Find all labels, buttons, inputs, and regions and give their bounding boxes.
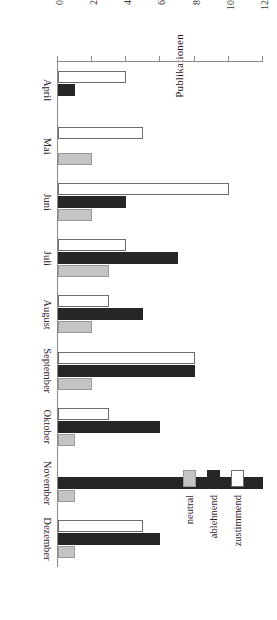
bar-ablehnend-oktober[interactable] [58,421,161,433]
legend-item-neutral: neutral [179,470,201,600]
bar-group [58,343,263,399]
bar-group [58,62,263,118]
legend-label-zustimmend: zustimmend [233,495,244,546]
bar-zustimmend-mai[interactable] [58,127,143,139]
bar-neutral-november[interactable] [58,490,75,502]
y-tick-mark [160,56,161,61]
legend-swatch-icon-zustimmend [232,470,245,487]
bar-ablehnend-august[interactable] [58,308,143,320]
bar-chart-figure: Publikationen 024681012 AprilMaiJuniJuli… [0,0,277,620]
bar-zustimmend-april[interactable] [58,71,126,83]
legend-swatch-icon-neutral [184,470,197,487]
y-tick-mark [262,56,263,61]
y-tick-label: 8 [191,0,202,54]
bar-zustimmend-oktober[interactable] [58,408,109,420]
bar-group [58,230,263,286]
legend-label-neutral: neutral [185,495,196,524]
bar-neutral-mai[interactable] [58,153,92,165]
bar-zustimmend-dezember[interactable] [58,520,143,532]
y-tick-label: 10 [225,0,236,54]
rotated-figure-wrapper: Publikationen 024681012 AprilMaiJuniJuli… [0,0,277,620]
y-tick-label: 4 [122,0,133,54]
x-tick-label-oktober: Oktober [42,399,53,455]
chart-legend: zustimmend ablehnend neutral [177,470,249,600]
y-tick-mark [57,56,58,61]
x-tick-label-april: April [42,62,53,118]
bar-ablehnend-april[interactable] [58,84,75,96]
x-tick-label-november: November [42,455,53,511]
x-tick-label-juni: Juni [42,174,53,230]
legend-item-ablehnend: ablehnend [203,470,225,600]
y-tick-label: 2 [88,0,99,54]
bar-group [58,399,263,455]
x-tick-label-mai: Mai [42,118,53,174]
y-tick-mark [91,56,92,61]
bar-ablehnend-juni[interactable] [58,196,126,208]
y-tick-mark [228,56,229,61]
bar-neutral-september[interactable] [58,378,92,390]
bar-neutral-juni[interactable] [58,209,92,221]
bar-neutral-oktober[interactable] [58,434,75,446]
bar-neutral-dezember[interactable] [58,546,75,558]
x-tick-label-august: August [42,286,53,342]
bar-zustimmend-juli[interactable] [58,239,126,251]
bar-ablehnend-juli[interactable] [58,252,178,264]
x-tick-label-juli: Juli [42,230,53,286]
x-tick-label-dezember: Dezember [42,511,53,567]
bar-ablehnend-september[interactable] [58,365,195,377]
bar-ablehnend-dezember[interactable] [58,533,161,545]
y-tick-label: 0 [54,0,65,54]
bar-zustimmend-september[interactable] [58,352,195,364]
y-tick-mark [125,56,126,61]
legend-swatch-icon-ablehnend [208,470,221,487]
bar-zustimmend-august[interactable] [58,295,109,307]
bar-group [58,286,263,342]
legend-label-ablehnend: ablehnend [209,495,220,538]
y-tick-mark [194,56,195,61]
legend-item-zustimmend: zustimmend [227,470,249,600]
bar-zustimmend-juni[interactable] [58,183,229,195]
bar-group [58,118,263,174]
bar-group [58,174,263,230]
y-tick-label: 12 [259,0,270,54]
bar-neutral-juli[interactable] [58,265,109,277]
y-tick-label: 6 [157,0,168,54]
x-tick-label-september: September [42,343,53,399]
bar-neutral-august[interactable] [58,321,92,333]
